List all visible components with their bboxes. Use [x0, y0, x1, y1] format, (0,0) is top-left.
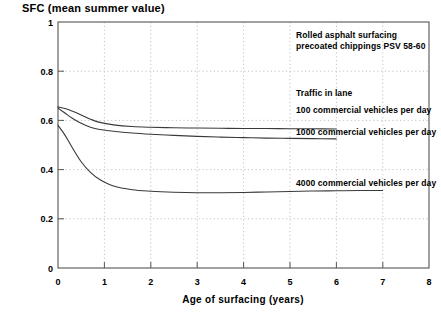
y-axis-ticks: [58, 71, 64, 219]
y-tick-label-0.2: 0.2: [40, 214, 53, 224]
x-tick-label-4: 4: [241, 277, 246, 287]
y-tick-label-0.8: 0.8: [40, 67, 53, 77]
y-tick-label-0: 0: [48, 264, 53, 274]
x-tick-label-6: 6: [334, 277, 339, 287]
y-tick-label-0.6: 0.6: [40, 116, 53, 126]
annotation-series-4000: 4000 commercial vehicles per day: [296, 178, 436, 188]
x-tick-label-0: 0: [55, 277, 60, 287]
x-tick-label-2: 2: [148, 277, 153, 287]
x-tick-label-8: 8: [426, 277, 431, 287]
chart-container: 1 0.8 0.6 0.4 0.2 0 0 1 2 3 4 5 6 7 8 Ro…: [0, 0, 441, 315]
x-tick-label-3: 3: [195, 277, 200, 287]
annotation-traffic-header: Traffic in lane: [296, 88, 352, 98]
y-tick-label-1: 1: [48, 18, 53, 28]
x-tick-label-7: 7: [380, 277, 385, 287]
x-tick-label-1: 1: [102, 277, 107, 287]
y-tick-label-0.4: 0.4: [40, 165, 53, 175]
chart-svg: 1 0.8 0.6 0.4 0.2 0 0 1 2 3 4 5 6 7 8 Ro…: [0, 0, 441, 315]
x-axis-title: Age of surfacing (years): [182, 294, 304, 305]
x-tick-label-5: 5: [287, 277, 292, 287]
annotation-series-100: 100 commercial vehicles per day: [296, 105, 432, 115]
annotation-series-1000: 1000 commercial vehicles per day: [296, 127, 436, 137]
x-axis-ticks: [104, 262, 382, 268]
annotation-surfacing-line1: Rolled asphalt surfacing: [296, 30, 397, 40]
series-line-1000: [58, 108, 336, 139]
grid-lines-horizontal: [58, 71, 429, 219]
grid-lines-vertical: [104, 22, 382, 268]
annotation-surfacing-line2: precoated chippings PSV 58-60: [296, 41, 426, 51]
